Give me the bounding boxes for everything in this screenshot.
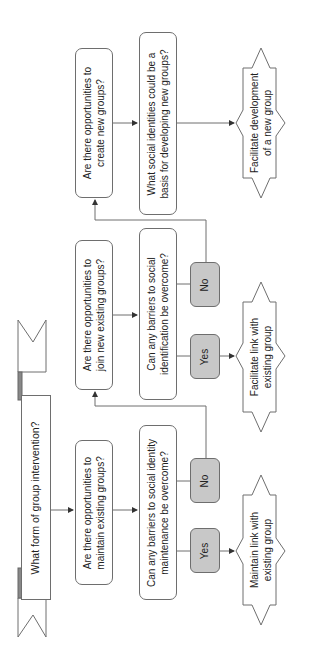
- question-line: maintenance be overcome?: [158, 439, 171, 587]
- question-line: Are there opportunities to: [82, 67, 95, 179]
- outcome-line: of a new group: [261, 73, 274, 173]
- question-barriers-identity-maintenance: Can any barriers to social identity main…: [139, 425, 177, 600]
- question-maintain-existing-groups: Are there opportunities to maintain exis…: [75, 440, 113, 585]
- question-line: identification be overcome?: [158, 253, 171, 375]
- question-line: Are there opportunities to: [82, 259, 95, 371]
- decision-label: Yes: [199, 542, 212, 558]
- question-line: Can any barriers to social identity: [146, 439, 159, 587]
- question-line: What social identities could be a: [146, 49, 159, 198]
- decision-label: No: [199, 474, 212, 487]
- decision-yes-identification: Yes: [190, 334, 220, 379]
- question-line: create new groups?: [94, 67, 107, 179]
- question-line: Can any barriers to social: [146, 253, 159, 375]
- decision-label: No: [199, 278, 212, 291]
- outcome-line: existing group: [261, 318, 274, 396]
- decision-no-maintenance: No: [190, 458, 220, 503]
- question-line: Are there opportunities to: [82, 456, 95, 569]
- start-banner: What form of group intervention?: [21, 395, 51, 600]
- question-create-new-groups: Are there opportunities to create new gr…: [75, 48, 113, 198]
- question-barriers-social-identification: Can any barriers to social identificatio…: [139, 228, 177, 400]
- outcome-line: Maintain link with: [249, 512, 262, 588]
- question-line: maintain existing groups?: [94, 456, 107, 569]
- decision-label: Yes: [199, 348, 212, 364]
- outcome-maintain-link: Maintain link with existing group: [236, 475, 286, 625]
- decision-no-identification: No: [190, 262, 220, 307]
- start-label: What form of group intervention?: [29, 421, 42, 574]
- question-social-identities-basis: What social identities could be a basis …: [139, 32, 177, 215]
- outcome-line: existing group: [261, 512, 274, 588]
- outcome-line: Facilitate development: [249, 73, 262, 173]
- outcome-line: Facilitate link with: [249, 318, 262, 396]
- question-join-new-existing-groups: Are there opportunities to join new exis…: [75, 240, 113, 390]
- outcome-facilitate-new-group: Facilitate development of a new group: [236, 48, 286, 198]
- question-line: basis for developing new groups?: [158, 49, 171, 198]
- question-line: join new existing groups?: [94, 259, 107, 371]
- outcome-facilitate-link: Facilitate link with existing group: [236, 282, 286, 432]
- decision-yes-maintenance: Yes: [190, 528, 220, 573]
